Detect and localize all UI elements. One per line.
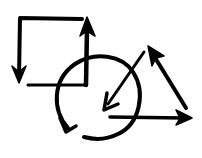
circle-shape [57,56,140,138]
circle-path [57,56,140,138]
square-top-left-path [19,18,82,78]
square-shape [12,17,95,85]
triangle-bottom-path [110,117,184,118]
triangle-right-path [154,56,186,108]
shapes-diagram [0,0,202,158]
